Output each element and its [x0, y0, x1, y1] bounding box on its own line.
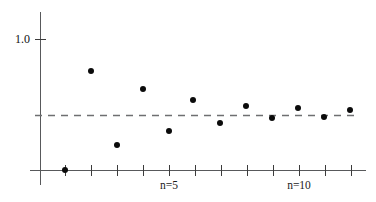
data-point-2 — [88, 68, 94, 74]
data-point-9 — [269, 115, 275, 121]
data-point-6 — [190, 97, 196, 103]
data-point-7 — [217, 120, 223, 126]
data-point-8 — [243, 103, 249, 109]
data-point-11 — [321, 114, 327, 120]
chart-figure: 1.0 — [0, 0, 376, 202]
x-axis-annotation-n10: n=10 — [287, 179, 311, 191]
data-point-3 — [114, 142, 120, 148]
data-point-12 — [347, 107, 353, 113]
scatter-plot-svg: 1.0 — [0, 0, 376, 202]
data-point-5 — [166, 128, 172, 134]
data-point-group — [62, 68, 353, 173]
x-axis-annotation-n5: n=5 — [160, 179, 178, 191]
data-point-4 — [140, 86, 146, 92]
y-axis-tick-label-1-0: 1.0 — [15, 32, 30, 46]
data-point-10 — [295, 105, 301, 111]
data-point-1 — [62, 167, 68, 173]
